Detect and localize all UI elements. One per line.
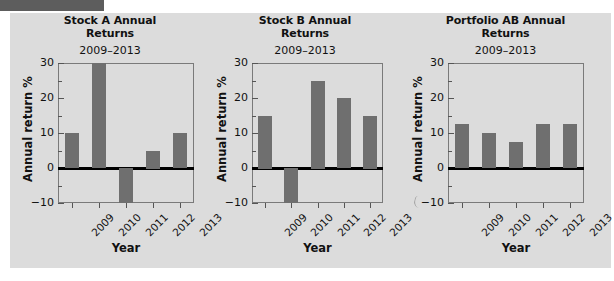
xtick-mark xyxy=(180,203,181,208)
xtick-mark xyxy=(570,203,571,208)
bar-stock-a-2009 xyxy=(65,133,79,168)
ytick-mark xyxy=(448,63,454,64)
bar-stock-a-2010 xyxy=(92,63,106,168)
ytick-mark xyxy=(252,98,258,99)
xtick-label-2009: 2009 xyxy=(282,211,309,238)
ytick-label: −10 xyxy=(214,196,248,209)
ytick-label: −10 xyxy=(410,196,444,209)
xtick-label-2011: 2011 xyxy=(143,211,170,238)
xtick-mark xyxy=(543,203,544,208)
ytick-mark xyxy=(58,151,62,152)
ytick-label: 10 xyxy=(24,126,54,139)
ytick-mark xyxy=(252,116,256,117)
ytick-mark xyxy=(448,151,452,152)
ytick-label: 0 xyxy=(24,161,54,174)
bar-portfolio-ab-2011 xyxy=(509,142,523,168)
xaxis-title-stock-a: Year xyxy=(58,241,194,255)
bar-portfolio-ab-2012 xyxy=(536,124,550,168)
chart-stock-b: Stock B Annual Returns 2009–2013 Annual … xyxy=(210,13,400,268)
ytick-mark xyxy=(448,98,454,99)
ytick-label: 20 xyxy=(218,91,248,104)
bar-portfolio-ab-2013 xyxy=(563,124,577,168)
ytick-mark xyxy=(252,151,256,152)
xtick-mark xyxy=(126,203,127,208)
ytick-mark xyxy=(58,98,64,99)
xtick-label-2010: 2010 xyxy=(116,211,143,238)
ytick-mark xyxy=(252,203,258,204)
ytick-mark xyxy=(448,81,452,82)
xtick-label-2012: 2012 xyxy=(170,211,197,238)
xtick-label-2011: 2011 xyxy=(533,211,560,238)
ytick-mark xyxy=(58,133,64,134)
ytick-mark xyxy=(252,63,258,64)
bar-stock-b-2012 xyxy=(337,98,351,168)
xtick-mark xyxy=(370,203,371,208)
header-strip xyxy=(0,0,104,11)
xtick-mark xyxy=(153,203,154,208)
charts-row: Stock A Annual Returns 2009–2013 Annual … xyxy=(10,13,611,268)
ytick-label: 30 xyxy=(218,56,248,69)
ytick-label: 10 xyxy=(218,126,248,139)
chart-stock-a: Stock A Annual Returns 2009–2013 Annual … xyxy=(10,13,210,268)
xtick-label-2009: 2009 xyxy=(89,211,116,238)
xtick-label-2010: 2010 xyxy=(308,211,335,238)
ytick-label: 30 xyxy=(24,56,54,69)
bar-portfolio-ab-2009 xyxy=(455,124,469,168)
xtick-mark xyxy=(291,203,292,208)
plot-wrap-portfolio-ab: Annual return % Year −100102030200920102… xyxy=(400,13,611,268)
ytick-mark xyxy=(252,81,256,82)
xtick-mark xyxy=(72,203,73,208)
xtick-mark xyxy=(344,203,345,208)
ytick-mark xyxy=(448,203,454,204)
ytick-label: 20 xyxy=(24,91,54,104)
ytick-label: 0 xyxy=(414,161,444,174)
chart-portfolio-ab: Portfolio AB Annual Returns 2009–2013 An… xyxy=(400,13,611,268)
ytick-mark xyxy=(58,116,62,117)
figure-panel: Stock A Annual Returns 2009–2013 Annual … xyxy=(10,13,611,268)
ytick-mark xyxy=(58,186,62,187)
ytick-mark xyxy=(448,133,454,134)
bar-stock-a-2013 xyxy=(173,133,187,168)
xaxis-title-stock-b: Year xyxy=(252,241,383,255)
xtick-label-2009: 2009 xyxy=(479,211,506,238)
xtick-mark xyxy=(99,203,100,208)
xtick-mark xyxy=(265,203,266,208)
xtick-mark xyxy=(516,203,517,208)
ytick-mark xyxy=(448,116,452,117)
xtick-label-2010: 2010 xyxy=(506,211,533,238)
plot-wrap-stock-b: Annual return % Year −100102030200920102… xyxy=(210,13,400,268)
ytick-mark xyxy=(58,63,64,64)
bar-stock-a-2012 xyxy=(146,151,160,169)
xtick-label-2012: 2012 xyxy=(560,211,587,238)
bar-stock-b-2010 xyxy=(284,168,298,203)
ytick-mark xyxy=(448,186,452,187)
xtick-label-2011: 2011 xyxy=(335,211,362,238)
ytick-mark xyxy=(58,203,64,204)
bar-stock-b-2009 xyxy=(258,116,272,169)
bar-stock-a-2011 xyxy=(119,168,133,203)
xtick-mark xyxy=(489,203,490,208)
ytick-label: −10 xyxy=(20,196,54,209)
bar-portfolio-ab-2010 xyxy=(482,133,496,168)
bar-stock-b-2011 xyxy=(311,81,325,169)
plot-wrap-stock-a: Annual return % Year −100102030200920102… xyxy=(10,13,210,268)
ytick-mark xyxy=(58,81,62,82)
xtick-mark xyxy=(462,203,463,208)
xtick-mark xyxy=(318,203,319,208)
xaxis-title-portfolio-ab: Year xyxy=(448,241,584,255)
xtick-label-2012: 2012 xyxy=(361,211,388,238)
ytick-label: 20 xyxy=(414,91,444,104)
ytick-label: 10 xyxy=(414,126,444,139)
ytick-mark xyxy=(252,186,256,187)
ytick-label: 0 xyxy=(218,161,248,174)
bar-stock-b-2013 xyxy=(363,116,377,169)
ytick-label: 30 xyxy=(414,56,444,69)
xtick-label-2013: 2013 xyxy=(587,211,614,238)
